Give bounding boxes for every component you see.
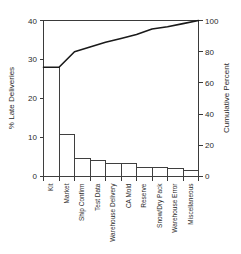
category-label-snow-dry-pack: Snow/Dry Pack <box>156 183 164 228</box>
right-tick-label-40: 40 <box>205 110 214 119</box>
category-ticks-group <box>44 177 199 181</box>
y-axis-title: % Late Deliveries <box>7 67 16 129</box>
left-tick-label-0: 0 <box>33 172 38 181</box>
pareto-chart: 0 10 20 30 40 0 20 40 60 80 100 <box>0 0 241 254</box>
bar-miscellaneous <box>183 170 199 176</box>
cumulative-percent-line <box>44 21 199 68</box>
bar-snow-dry-pack <box>152 168 168 177</box>
right-axis-ticks: 0 20 40 60 80 100 <box>199 17 219 181</box>
y2-axis-title: Cumulative Percent <box>222 62 231 133</box>
right-tick-label-60: 60 <box>205 79 214 88</box>
bar-warehouse-error <box>168 169 184 177</box>
bar-reserve <box>137 168 153 177</box>
category-label-ca-mold: CA Mold <box>125 183 132 208</box>
category-label-kit: Kit <box>47 183 54 191</box>
bar-ca-mold <box>121 163 137 176</box>
category-label-reserve: Reserve <box>140 183 147 208</box>
left-tick-label-20: 20 <box>28 94 37 103</box>
pareto-chart-svg: 0 10 20 30 40 0 20 40 60 80 100 <box>0 0 241 254</box>
left-tick-label-10: 10 <box>28 133 37 142</box>
bar-kit <box>44 67 60 176</box>
bar-market <box>59 135 75 177</box>
right-tick-label-80: 80 <box>205 48 214 57</box>
bar-ship-confirm <box>75 159 91 177</box>
category-label-miscellaneous: Miscellaneous <box>187 183 194 225</box>
category-label-market: Market <box>63 183 70 203</box>
category-label-ship-confirm: Ship Confirm <box>78 184 86 222</box>
category-label-warehouse-error: Warehouse Error <box>171 183 178 233</box>
category-label-test-data: Test Data <box>94 183 101 211</box>
right-tick-label-100: 100 <box>205 17 219 26</box>
left-tick-label-30: 30 <box>28 55 37 64</box>
right-tick-label-20: 20 <box>205 141 214 150</box>
right-tick-label-0: 0 <box>205 172 210 181</box>
left-axis-ticks: 0 10 20 30 40 <box>28 17 43 181</box>
left-tick-label-40: 40 <box>28 17 37 26</box>
category-label-warehouse-delivery: Warehouse Delivery <box>109 183 117 242</box>
cumulative-line-group <box>44 21 199 68</box>
bar-test-data <box>90 161 106 177</box>
category-labels-group: KitMarketShip ConfirmTest DataWarehouse … <box>47 183 194 242</box>
bar-warehouse-delivery <box>106 164 122 177</box>
bars-group <box>44 67 199 176</box>
